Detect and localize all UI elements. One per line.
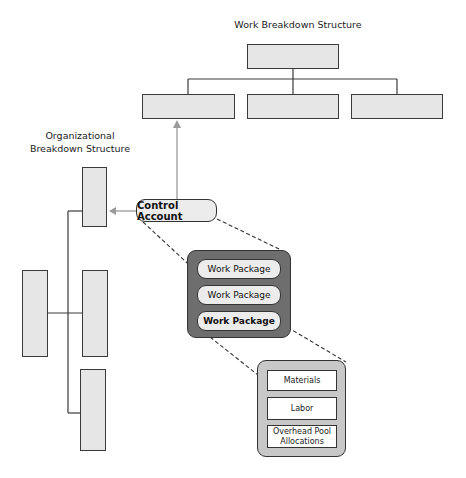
cost-element-overhead-line2: Allocations [280,437,324,447]
obs-title: Organizational Breakdown Structure [20,129,140,155]
obs-child-box-3 [80,369,106,451]
work-package-1-label: Work Package [208,264,271,274]
control-account-label: Control Account [137,200,216,222]
obs-child-box-2 [82,270,108,357]
cost-element-materials: Materials [267,370,337,391]
work-package-2: Work Package [197,285,281,305]
work-package-2-label: Work Package [208,290,271,300]
cost-element-materials-label: Materials [284,376,321,386]
work-package-3: Work Package [197,311,281,331]
wbs-top-box [247,44,339,69]
obs-child-box-1 [82,167,107,227]
work-package-container: Work Package Work Package Work Package [187,250,291,338]
work-package-1: Work Package [197,259,281,279]
control-account: Control Account [136,199,217,222]
obs-title-line1: Organizational [20,129,140,142]
cost-elements-container: Materials Labor Overhead Pool Allocation… [257,360,346,457]
cost-element-labor: Labor [267,397,337,420]
wbs-child-box-2 [247,94,339,119]
cost-element-labor-label: Labor [291,404,314,414]
obs-root-box [22,270,48,357]
wbs-child-box-1 [142,94,235,119]
work-package-3-label: Work Package [203,316,275,326]
cost-element-overhead: Overhead Pool Allocations [267,425,337,448]
cost-element-overhead-line1: Overhead Pool [273,427,331,437]
obs-title-line2: Breakdown Structure [20,142,140,155]
wbs-child-box-3 [351,94,443,119]
connector-lines [0,0,466,478]
wbs-title: Work Breakdown Structure [218,18,378,31]
